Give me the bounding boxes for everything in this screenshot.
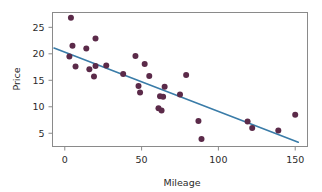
- x-tick-label: 100: [209, 154, 227, 165]
- data-point: [162, 84, 168, 90]
- data-point: [160, 94, 166, 100]
- x-tick-label: 50: [136, 154, 148, 165]
- data-point: [66, 53, 72, 59]
- data-point: [137, 89, 143, 95]
- x-tick-label: 0: [62, 154, 68, 165]
- data-point: [275, 128, 281, 134]
- data-point: [146, 73, 152, 79]
- data-point: [136, 83, 142, 89]
- data-point: [73, 64, 79, 70]
- y-tick-label: 5: [38, 128, 44, 139]
- data-point: [199, 136, 205, 142]
- y-tick-label: 10: [32, 101, 44, 112]
- data-point: [93, 63, 99, 69]
- data-point: [69, 43, 75, 49]
- y-tick-label: 25: [32, 22, 44, 33]
- x-tick-label: 150: [286, 154, 304, 165]
- data-point: [91, 74, 97, 80]
- data-point: [103, 62, 109, 68]
- data-point: [132, 53, 138, 59]
- data-point: [249, 125, 255, 131]
- data-point: [86, 66, 92, 72]
- data-point: [183, 72, 189, 78]
- data-point: [120, 71, 126, 77]
- data-point: [93, 35, 99, 41]
- y-axis-title: Price: [11, 67, 22, 90]
- data-point: [68, 15, 74, 21]
- y-tick-label: 15: [32, 75, 44, 86]
- data-point: [195, 118, 201, 124]
- data-point: [245, 119, 251, 125]
- scatter-plot-svg: 050100150510152025 Mileage Price: [0, 0, 322, 192]
- x-axis-title: Mileage: [163, 177, 200, 188]
- data-point: [177, 92, 183, 98]
- data-point: [142, 61, 148, 67]
- data-point: [292, 112, 298, 118]
- chart-figure: 050100150510152025 Mileage Price: [0, 0, 322, 192]
- data-point: [83, 46, 89, 52]
- data-point: [159, 107, 165, 113]
- y-tick-label: 20: [32, 48, 44, 59]
